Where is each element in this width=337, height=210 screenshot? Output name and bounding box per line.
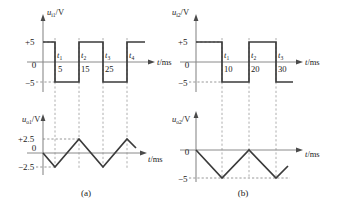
waveform-figure: ui1/V +5 0 −5 t1 t2 t3 t4 5 15 25 t/ms u… xyxy=(0,0,337,210)
ytick-b-output-neg5: −5 xyxy=(178,174,188,184)
x-axis-arrow-b-output xyxy=(296,148,303,153)
ytick-b-input-pos5: +5 xyxy=(178,37,188,47)
panel-a-gridlines xyxy=(55,38,127,168)
x-axis-label-b-output: t/ms xyxy=(305,149,320,159)
y-axis-arrow-b-output xyxy=(194,111,199,118)
xtick-a-25: 25 xyxy=(105,64,114,74)
ytick-a-output-neg25: −2.5 xyxy=(18,162,35,172)
caption-b: (b) xyxy=(238,188,249,198)
y-axis-label-b-output: uo2/V xyxy=(172,114,191,125)
marker-label-a-t2: t2 xyxy=(81,50,86,61)
y-axis-label-a-input: ui1/V xyxy=(47,7,65,18)
xtick-b-30: 30 xyxy=(278,64,287,74)
marker-label-a-t3: t3 xyxy=(105,50,110,61)
chart-a-output: uo1/V +2.5 0 −2.5 t/ms xyxy=(18,114,163,175)
caption-a: (a) xyxy=(81,188,91,198)
ytick-a-input-neg5: −5 xyxy=(25,78,35,88)
ytick-b-output-zero: 0 xyxy=(185,147,190,157)
x-axis-arrow-a-input xyxy=(148,60,155,65)
xtick-a-15: 15 xyxy=(81,64,90,74)
x-axis-label-b-input: t/ms xyxy=(305,57,320,67)
ytick-a-output-zero: 0 xyxy=(32,143,37,153)
y-axis-arrow-b-input xyxy=(194,14,199,21)
panel-b: ui2/V +5 0 −5 t1 t2 t3 10 20 30 t/ms uo2… xyxy=(172,7,320,198)
marker-label-a-t4: t4 xyxy=(129,50,134,61)
marker-label-a-t1: t1 xyxy=(57,50,62,61)
y-axis-label-a-output: uo1/V xyxy=(22,114,41,125)
y-axis-arrow-a-output xyxy=(41,114,46,121)
xtick-b-20: 20 xyxy=(251,64,260,74)
x-axis-label-a-output: t/ms xyxy=(148,154,163,164)
ytick-b-input-neg5: −5 xyxy=(178,78,188,88)
marker-label-b-t1: t1 xyxy=(224,50,229,61)
marker-label-b-t3: t3 xyxy=(278,50,283,61)
chart-b-output: uo2/V 0 −5 t/ms xyxy=(172,111,320,184)
xtick-a-5: 5 xyxy=(58,64,62,74)
x-axis-arrow-b-input xyxy=(296,60,303,65)
y-axis-arrow-a-input xyxy=(41,14,46,21)
xtick-b-10: 10 xyxy=(224,64,233,74)
chart-a-input: ui1/V +5 0 −5 t1 t2 t3 t4 5 15 25 t/ms xyxy=(25,7,172,92)
marker-label-b-t2: t2 xyxy=(251,50,256,61)
waveform-b-output xyxy=(196,150,288,178)
panel-a: ui1/V +5 0 −5 t1 t2 t3 t4 5 15 25 t/ms u… xyxy=(18,7,172,198)
chart-b-input: ui2/V +5 0 −5 t1 t2 t3 10 20 30 t/ms xyxy=(172,7,320,92)
ytick-a-input-zero: 0 xyxy=(32,60,37,70)
x-axis-label-a-input: t/ms xyxy=(157,57,172,67)
x-axis-arrow-a-output xyxy=(140,151,147,156)
ytick-b-input-zero: 0 xyxy=(185,60,190,70)
figure-svg: ui1/V +5 0 −5 t1 t2 t3 t4 5 15 25 t/ms u… xyxy=(0,0,337,210)
ytick-a-input-pos5: +5 xyxy=(25,37,35,47)
y-axis-label-b-input: ui2/V xyxy=(172,7,190,18)
